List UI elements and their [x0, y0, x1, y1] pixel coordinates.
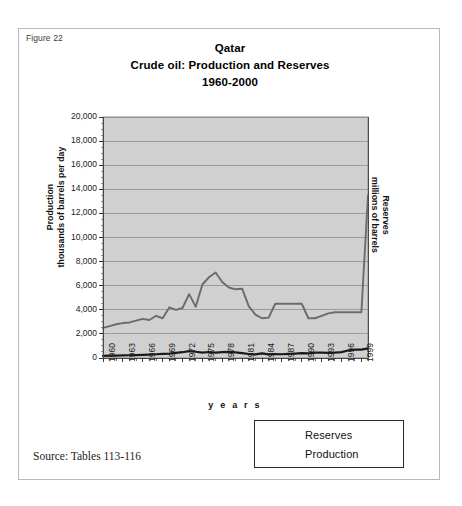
y-axis-title-left: Production thousands of barrels per day	[45, 137, 67, 277]
figure-page: Figure 22 Qatar Crude oil: Production an…	[0, 0, 462, 506]
legend-label-reserves: Reserves	[305, 429, 352, 441]
y-axis-title-right-line1: Reserves	[380, 155, 391, 275]
y-axis-tick-label: 20,000	[45, 111, 97, 121]
legend-label-production: Production	[305, 448, 359, 460]
y-axis-title-right-line2: millions of barrels	[369, 155, 380, 275]
y-axis-title-left-line1: Production	[45, 137, 56, 277]
x-axis-tick-label: 1978	[226, 343, 236, 362]
x-axis-tick-label: 1963	[127, 343, 137, 362]
x-axis-tick-label: 1996	[346, 343, 356, 362]
x-axis-tick-label: 1990	[306, 343, 316, 362]
chart-legend: Reserves Production	[254, 420, 404, 468]
y-axis-tick-label: 0	[45, 352, 97, 362]
y-axis-tick-label: 6,000	[45, 280, 97, 290]
x-axis-tick-label: 1999	[365, 343, 375, 362]
x-axis-tick-label: 1966	[147, 343, 157, 362]
x-axis-tick-label: 1993	[326, 343, 336, 362]
x-axis-tick-label: 1972	[187, 343, 197, 362]
x-axis-tick-label: 1981	[246, 343, 256, 362]
legend-item-reserves: Reserves	[255, 425, 403, 444]
y-axis-title-left-line2: thousands of barrels per day	[56, 137, 67, 277]
y-axis-tick-label: 2,000	[45, 328, 97, 338]
legend-item-production: Production	[255, 444, 403, 463]
y-axis-title-right: Reserves millions of barrels	[369, 155, 391, 275]
y-axis-tick-label: 4,000	[45, 304, 97, 314]
x-axis-tick-label: 1987	[286, 343, 296, 362]
source-note: Source: Tables 113-116	[33, 450, 141, 462]
x-axis-tick-label: 1975	[206, 343, 216, 362]
x-axis-tick-label: 1984	[266, 343, 276, 362]
x-axis-tick-label: 1969	[167, 343, 177, 362]
x-axis-tick-label: 1960	[107, 343, 117, 362]
x-axis-title: y e a r s	[150, 400, 320, 410]
